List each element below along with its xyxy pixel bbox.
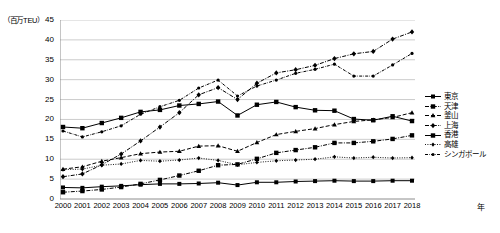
data-point-marker bbox=[80, 189, 84, 193]
legend-label: 東京 bbox=[444, 93, 458, 101]
legend-marker-icon bbox=[425, 150, 441, 159]
data-point-marker bbox=[332, 108, 336, 112]
legend-item-香港[interactable]: 香港 bbox=[425, 130, 486, 140]
y-axis-tick-label: 15 bbox=[36, 134, 54, 143]
data-point-marker bbox=[431, 123, 435, 128]
data-point-marker bbox=[255, 84, 258, 87]
data-point-marker bbox=[275, 78, 278, 81]
data-point-marker bbox=[158, 182, 162, 186]
data-point-marker bbox=[119, 151, 123, 156]
data-point-marker bbox=[391, 63, 394, 66]
legend-item-高雄[interactable]: 高雄 bbox=[425, 140, 486, 150]
data-point-marker bbox=[410, 110, 415, 114]
data-point-marker bbox=[235, 113, 239, 117]
data-point-marker bbox=[61, 190, 65, 194]
data-point-marker bbox=[61, 174, 65, 179]
data-point-marker bbox=[61, 129, 64, 132]
data-point-marker bbox=[274, 132, 279, 136]
y-axis-tick-label: 20 bbox=[36, 114, 54, 123]
data-point-marker bbox=[274, 70, 278, 75]
data-point-marker bbox=[81, 135, 84, 138]
data-point-marker bbox=[390, 36, 394, 41]
legend-marker-icon bbox=[425, 121, 441, 130]
data-point-marker bbox=[332, 179, 336, 183]
series-line bbox=[63, 32, 412, 177]
data-point-marker bbox=[333, 155, 337, 159]
legend-marker-icon bbox=[425, 111, 441, 120]
series-東京 bbox=[61, 179, 414, 190]
data-point-marker bbox=[332, 122, 337, 126]
data-point-marker bbox=[197, 181, 201, 185]
data-point-marker bbox=[371, 49, 375, 54]
data-point-marker bbox=[352, 179, 356, 183]
y-axis-tick-label: 40 bbox=[36, 35, 54, 44]
data-point-marker bbox=[216, 181, 220, 185]
data-point-marker bbox=[352, 117, 356, 121]
data-point-marker bbox=[274, 100, 278, 104]
series-シンガポール bbox=[61, 52, 413, 139]
legend-item-釜山[interactable]: 釜山 bbox=[425, 111, 486, 121]
data-point-marker bbox=[313, 108, 317, 112]
data-point-marker bbox=[371, 155, 375, 159]
data-point-marker bbox=[313, 68, 316, 71]
data-point-marker bbox=[158, 108, 162, 112]
y-axis-tick-label: 25 bbox=[36, 95, 54, 104]
y-axis-tick-label: 5 bbox=[36, 174, 54, 183]
data-point-marker bbox=[178, 158, 182, 162]
data-point-marker bbox=[100, 187, 104, 191]
data-point-marker bbox=[61, 167, 65, 171]
data-point-marker bbox=[216, 85, 220, 90]
data-point-marker bbox=[332, 56, 336, 61]
legend-item-シンガポール[interactable]: シンガポール bbox=[425, 150, 486, 160]
data-point-marker bbox=[410, 133, 414, 137]
data-point-marker bbox=[313, 157, 317, 161]
data-point-marker bbox=[217, 78, 220, 81]
data-point-marker bbox=[100, 121, 104, 125]
data-point-marker bbox=[410, 52, 413, 55]
data-point-marker bbox=[139, 113, 142, 116]
data-point-marker bbox=[371, 139, 375, 143]
legend-label: 釜山 bbox=[444, 112, 458, 120]
chart-legend: 東京天津釜山上海香港高雄シンガポール bbox=[425, 92, 486, 159]
y-axis-tick-label: 30 bbox=[36, 75, 54, 84]
y-axis-tick-label: 10 bbox=[36, 154, 54, 163]
data-point-marker bbox=[216, 163, 220, 167]
data-point-marker bbox=[255, 103, 259, 107]
data-point-marker bbox=[431, 143, 435, 147]
y-axis-tick-label: 35 bbox=[36, 55, 54, 64]
data-point-marker bbox=[177, 110, 181, 115]
data-point-marker bbox=[352, 51, 356, 56]
data-point-marker bbox=[352, 141, 356, 145]
data-point-marker bbox=[197, 169, 201, 173]
legend-label: 高雄 bbox=[444, 141, 458, 149]
data-point-marker bbox=[158, 178, 162, 182]
legend-marker-icon bbox=[425, 102, 441, 111]
data-point-marker bbox=[294, 72, 297, 75]
data-point-marker bbox=[158, 159, 162, 163]
legend-label: 上海 bbox=[444, 122, 458, 130]
chart-root: （百万TEU） 051015202530354045 2000200120022… bbox=[0, 0, 500, 233]
data-point-marker bbox=[216, 99, 220, 103]
legend-label: 天津 bbox=[444, 103, 458, 111]
data-point-marker bbox=[293, 67, 297, 72]
data-point-marker bbox=[177, 173, 181, 177]
legend-item-東京[interactable]: 東京 bbox=[425, 92, 486, 102]
data-point-marker bbox=[119, 116, 123, 120]
data-point-marker bbox=[431, 153, 434, 156]
legend-marker-icon bbox=[425, 92, 441, 101]
series-香港 bbox=[61, 99, 414, 130]
series-高雄 bbox=[61, 155, 414, 172]
data-point-marker bbox=[119, 185, 123, 189]
data-point-marker bbox=[216, 143, 221, 147]
data-point-marker bbox=[177, 103, 181, 107]
legend-item-天津[interactable]: 天津 bbox=[425, 102, 486, 112]
data-point-marker bbox=[352, 74, 355, 77]
data-point-marker bbox=[80, 126, 84, 130]
data-point-marker bbox=[293, 105, 297, 109]
data-point-marker bbox=[274, 151, 278, 155]
data-point-marker bbox=[177, 182, 181, 186]
legend-item-上海[interactable]: 上海 bbox=[425, 121, 486, 131]
x-axis-tick-label: 2018 bbox=[399, 201, 425, 210]
data-point-marker bbox=[236, 183, 240, 187]
data-point-marker bbox=[431, 95, 435, 99]
